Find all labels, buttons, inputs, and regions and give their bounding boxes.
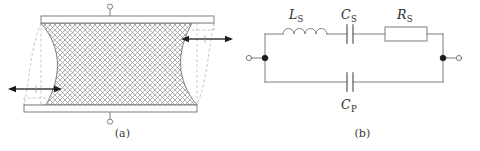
label-cap-series-sub: S [351, 14, 357, 24]
top-terminal[interactable] [107, 4, 112, 16]
figure-root: (a) [0, 0, 480, 151]
crystal-body [41, 23, 197, 105]
caption-panel-a: (a) [0, 127, 245, 140]
label-cap-parallel-sub: P [351, 104, 357, 114]
panel-a-crystal: (a) [0, 0, 245, 151]
resistor-series [385, 27, 427, 41]
capacitor-series [347, 25, 353, 43]
right-expansion-arrow-pair [181, 35, 233, 43]
label-capacitor-series: CS [341, 9, 356, 22]
label-cap-parallel-base: C [341, 97, 351, 112]
label-inductor-series: LS [289, 9, 303, 22]
label-inductor-sub: S [298, 14, 304, 24]
panel-b-circuit: LS CS RS CP (b) [245, 0, 480, 151]
label-resistor-base: R [397, 7, 406, 22]
top-electrode [41, 16, 214, 23]
bottom-electrode [24, 105, 197, 112]
inductor-series [283, 29, 327, 34]
label-inductor-base: L [289, 7, 297, 22]
label-resistor-series: RS [397, 9, 412, 22]
bottom-terminal[interactable] [107, 112, 112, 124]
capacitor-parallel [347, 73, 353, 91]
caption-panel-b: (b) [245, 127, 480, 140]
left-junction-node [262, 34, 268, 82]
label-cap-series-base: C [341, 7, 351, 22]
label-capacitor-parallel: CP [341, 99, 356, 112]
label-resistor-sub: S [407, 14, 413, 24]
right-junction-node [440, 34, 446, 82]
